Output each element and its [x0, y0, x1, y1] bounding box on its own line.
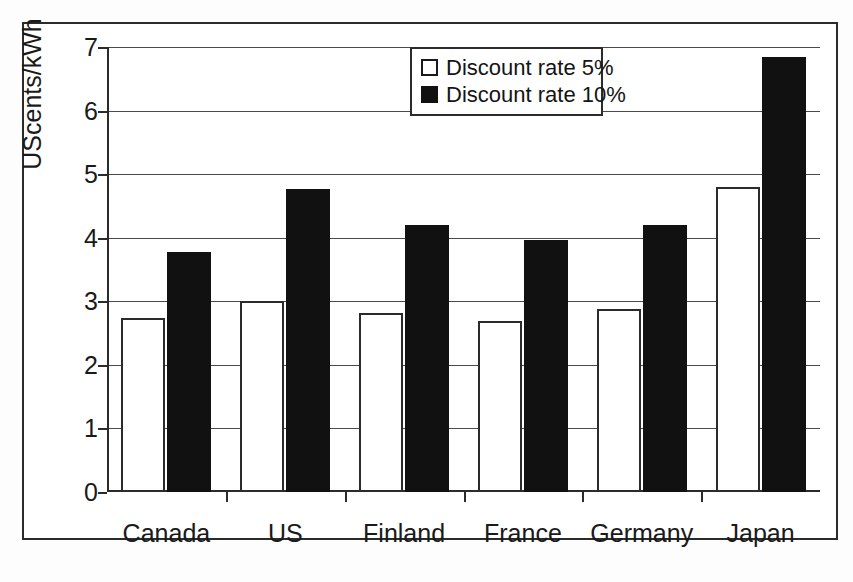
y-tick-label-3: 3	[84, 289, 98, 314]
y-tick-label-2: 2	[84, 352, 98, 377]
gridline-4	[107, 238, 820, 239]
legend-item-discount-rate-5: Discount rate 5%	[421, 54, 592, 81]
bar-canada-discount-10	[167, 252, 211, 492]
y-tick-label-7: 7	[84, 35, 98, 60]
y-tick-label-0: 0	[84, 480, 98, 505]
x-separator-5	[701, 492, 703, 502]
bar-us-discount-10	[286, 189, 330, 492]
y-tick-3	[98, 301, 107, 303]
x-label-finland: Finland	[363, 519, 445, 548]
legend-label-discount-rate-10: Discount rate 10%	[446, 84, 626, 106]
x-label-canada: Canada	[123, 519, 211, 548]
y-tick-5	[98, 174, 107, 176]
gridline-3	[107, 301, 820, 302]
x-label-germany: Germany	[590, 519, 693, 548]
bar-france-discount-5	[478, 321, 522, 492]
y-tick-7	[98, 47, 107, 49]
y-tick-0	[98, 492, 107, 494]
legend-swatch-white-square-icon	[421, 59, 438, 76]
gridline-1	[107, 428, 820, 429]
legend-swatch-black-square-icon	[421, 86, 438, 103]
x-separator-3	[464, 492, 466, 502]
y-tick-label-4: 4	[84, 225, 98, 250]
bar-finland-discount-5	[359, 313, 403, 492]
bar-japan-discount-5	[716, 187, 760, 492]
x-separator-2	[345, 492, 347, 502]
y-tick-label-6: 6	[84, 98, 98, 123]
bar-germany-discount-10	[643, 225, 687, 492]
bar-japan-discount-10	[762, 57, 806, 492]
y-tick-1	[98, 428, 107, 430]
bar-finland-discount-10	[405, 225, 449, 492]
x-label-france: France	[484, 519, 562, 548]
x-separator-1	[226, 492, 228, 502]
x-label-us: US	[268, 519, 303, 548]
x-separator-4	[582, 492, 584, 502]
y-tick-label-5: 5	[84, 162, 98, 187]
y-tick-6	[98, 111, 107, 113]
gridline-2	[107, 365, 820, 366]
x-label-japan: Japan	[727, 519, 795, 548]
y-axis-line	[107, 47, 109, 492]
legend-item-discount-rate-10: Discount rate 10%	[421, 81, 592, 108]
y-axis-tick-labels: 01234567	[60, 47, 98, 492]
legend-label-discount-rate-5: Discount rate 5%	[446, 57, 614, 79]
chart-outer-frame: 01234567 UScents/kWh CanadaUSFinlandFran…	[22, 22, 838, 540]
bar-germany-discount-5	[597, 309, 641, 492]
y-tick-2	[98, 365, 107, 367]
y-axis-title-text: UScents/kWh	[18, 0, 47, 224]
bar-us-discount-5	[240, 301, 284, 492]
bar-canada-discount-5	[121, 318, 165, 492]
chart-figure: 01234567 UScents/kWh CanadaUSFinlandFran…	[0, 0, 853, 582]
y-tick-4	[98, 238, 107, 240]
bar-france-discount-10	[524, 240, 568, 492]
chart-legend: Discount rate 5% Discount rate 10%	[410, 47, 603, 116]
y-tick-label-1: 1	[84, 416, 98, 441]
gridline-5	[107, 174, 820, 175]
